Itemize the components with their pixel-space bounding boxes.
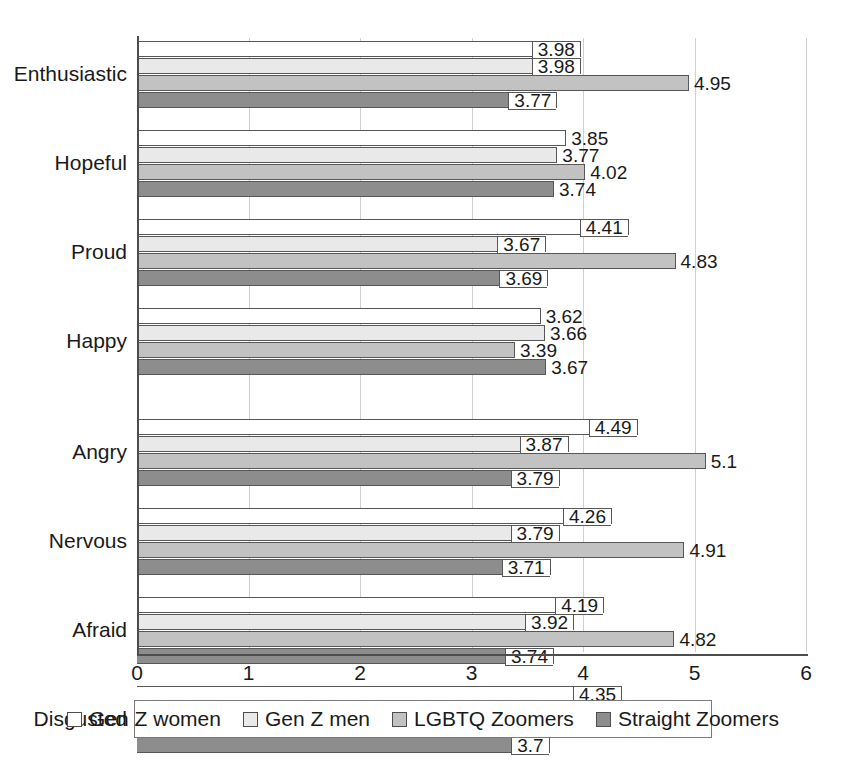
gridline: [806, 38, 807, 652]
x-tick-label: 0: [107, 661, 167, 685]
bar: 4.83: [137, 253, 676, 269]
x-tick-label: 5: [665, 661, 725, 685]
bar-group: Angry4.493.875.13.79: [137, 419, 806, 487]
bar-value-label: 3.98: [532, 58, 580, 76]
bar-value-label: 4.41: [580, 219, 628, 237]
bar-row: 4.02: [137, 164, 806, 180]
category-label: Afraid: [0, 618, 127, 642]
legend-item[interactable]: Straight Zoomers: [596, 707, 779, 731]
bar-row: 3.98: [137, 41, 806, 57]
bar-group: Proud4.413.674.833.69: [137, 219, 806, 287]
legend-label: Gen Z men: [265, 707, 370, 731]
bar-group: Hopeful3.853.774.023.74: [137, 130, 806, 198]
bar: 3.92: [137, 614, 574, 630]
bar-row: 3.66: [137, 325, 806, 341]
bar-row: 4.91: [137, 542, 806, 558]
bar: 4.26: [137, 508, 612, 524]
bar-row: 3.39: [137, 342, 806, 358]
bar-value-label: 3.67: [545, 357, 588, 378]
legend-item[interactable]: Gen Z women: [67, 707, 221, 731]
bar-row: 4.19: [137, 597, 806, 613]
bar: 4.41: [137, 219, 629, 235]
bar: 3.98: [137, 41, 581, 57]
bar-row: 3.92: [137, 614, 806, 630]
plot-area: Enthusiastic3.983.984.953.77Hopeful3.853…: [137, 38, 806, 652]
x-tick-label: 4: [553, 661, 613, 685]
x-tick-label: 2: [330, 661, 390, 685]
bar: 3.85: [137, 130, 566, 146]
grouped-bar-chart: Enthusiastic3.983.984.953.77Hopeful3.853…: [0, 0, 846, 775]
category-label: Hopeful: [0, 151, 127, 175]
bar-row: 5.1: [137, 453, 806, 469]
bar: 4.49: [137, 419, 638, 435]
bar: 3.79: [137, 470, 560, 486]
bar-row: 3.79: [137, 470, 806, 486]
bar: 3.77: [137, 92, 557, 108]
bar-row: 3.67: [137, 236, 806, 252]
bar: 3.66: [137, 325, 545, 341]
bar-value-label: 4.82: [673, 629, 716, 650]
x-tick-label: 6: [776, 661, 836, 685]
bar: 3.7: [137, 737, 550, 753]
bar-value-label: 5.1: [705, 451, 737, 472]
bar-row: 3.98: [137, 58, 806, 74]
legend-label: Gen Z women: [89, 707, 221, 731]
bar: 3.79: [137, 525, 560, 541]
bar-value-label: 4.26: [563, 508, 611, 526]
bar-row: 3.87: [137, 436, 806, 452]
legend-label: LGBTQ Zoomers: [414, 707, 574, 731]
bar-group: Nervous4.263.794.913.71: [137, 508, 806, 576]
bar-value-label: 3.74: [505, 648, 553, 666]
bar-value-label: 4.83: [675, 251, 718, 272]
bar-value-label: 4.95: [688, 73, 731, 94]
bar-value-label: 3.87: [520, 436, 568, 454]
bar: 4.02: [137, 164, 585, 180]
bar-row: 3.74: [137, 181, 806, 197]
bar: 3.87: [137, 436, 569, 452]
bar: 4.91: [137, 542, 684, 558]
legend-swatch-icon: [392, 712, 407, 727]
x-tick-label: 1: [219, 661, 279, 685]
bar: 3.62: [137, 308, 541, 324]
bar-row: 3.77: [137, 147, 806, 163]
legend-swatch-icon: [67, 712, 82, 727]
bar-row: 3.79: [137, 525, 806, 541]
bar-row: 3.7: [137, 737, 806, 753]
bar-row: 3.69: [137, 270, 806, 286]
bar-row: 4.41: [137, 219, 806, 235]
bar: 3.67: [137, 359, 546, 375]
legend-item[interactable]: LGBTQ Zoomers: [392, 707, 574, 731]
bar: 5.1: [137, 453, 706, 469]
category-label: Enthusiastic: [0, 62, 127, 86]
category-label: Angry: [0, 440, 127, 464]
bar: 3.98: [137, 58, 581, 74]
bar-value-label: 3.79: [511, 470, 559, 488]
legend-label: Straight Zoomers: [618, 707, 779, 731]
bar: 3.69: [137, 270, 548, 286]
bar-row: 4.26: [137, 508, 806, 524]
bar-value-label: 3.79: [511, 525, 559, 543]
bar: 4.95: [137, 75, 689, 91]
bar-value-label: 4.91: [683, 540, 726, 561]
bar-value-label: 4.49: [589, 419, 637, 437]
category-label: Proud: [0, 240, 127, 264]
bar-row: 3.71: [137, 559, 806, 575]
legend-item[interactable]: Gen Z men: [243, 707, 370, 731]
bar: 4.19: [137, 597, 604, 613]
chart-legend: Gen Z womenGen Z menLGBTQ ZoomersStraigh…: [134, 700, 712, 738]
bar-value-label: 3.74: [553, 179, 596, 200]
bar-row: 4.83: [137, 253, 806, 269]
x-tick-label: 3: [442, 661, 502, 685]
bar-row: 3.67: [137, 359, 806, 375]
bar: 3.67: [137, 236, 546, 252]
bar-value-label: 3.67: [497, 236, 545, 254]
bar-value-label: 3.92: [525, 614, 573, 632]
y-axis-line: [137, 36, 139, 656]
legend-swatch-icon: [596, 712, 611, 727]
category-label: Nervous: [0, 529, 127, 553]
bar: 3.71: [137, 559, 551, 575]
bar-row: 3.77: [137, 92, 806, 108]
category-label: Happy: [0, 329, 127, 353]
bar: 3.39: [137, 342, 515, 358]
x-axis-line: [137, 654, 808, 656]
